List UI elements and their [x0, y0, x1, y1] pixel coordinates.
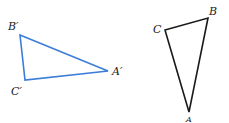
- label-c: C: [153, 23, 162, 36]
- preimage-triangle-abc: [165, 18, 208, 112]
- triangle-transformation-diagram: B′ C′ A′ C B A: [0, 0, 229, 123]
- diagram-svg: B′ C′ A′ C B A: [0, 0, 229, 123]
- label-b: B: [208, 5, 217, 18]
- label-b-prime: B′: [7, 20, 19, 33]
- label-a-prime: A′: [111, 65, 123, 78]
- label-c-prime: C′: [11, 85, 22, 98]
- label-a: A: [185, 115, 192, 123]
- image-triangle-abc-prime: [20, 35, 108, 80]
